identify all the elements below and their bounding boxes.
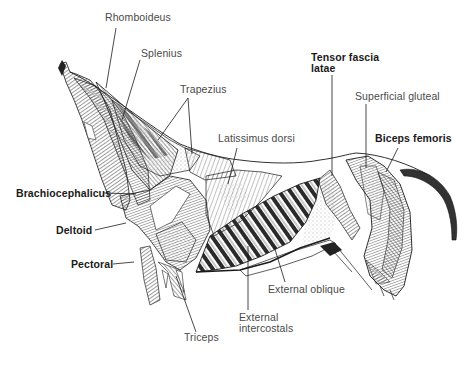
- label-superficial-gluteal: Superficial gluteal: [355, 91, 440, 102]
- leader-trapezius-a: [158, 98, 188, 140]
- leader-external-oblique: [274, 246, 285, 282]
- label-tensor-line2: latae: [311, 63, 379, 74]
- label-external-intercostals: External intercostals: [239, 312, 293, 334]
- label-latissimus-dorsi: Latissimus dorsi: [218, 133, 295, 144]
- leader-deltoid: [95, 223, 126, 230]
- label-tensor-fascia-latae: Tensor fascia latae: [311, 52, 379, 74]
- label-deltoid: Deltoid: [56, 225, 92, 236]
- forelimb-region: [120, 176, 210, 305]
- label-trapezius: Trapezius: [180, 84, 227, 95]
- label-biceps-femoris: Biceps femoris: [375, 133, 452, 144]
- label-brachiocephalicus: Brachiocephalicus: [16, 188, 111, 199]
- label-intercostals-line2: intercostals: [239, 323, 293, 334]
- label-triceps: Triceps: [184, 332, 219, 343]
- leader-triceps: [176, 276, 196, 332]
- leader-trapezius-b: [188, 98, 192, 154]
- leader-pectoral: [113, 262, 134, 264]
- leader-biceps-femoris: [386, 148, 398, 172]
- label-splenius: Splenius: [141, 48, 182, 59]
- label-pectoral: Pectoral: [71, 259, 113, 270]
- anatomy-diagram: Rhomboideus Splenius Trapezius Latissimu…: [0, 0, 466, 366]
- label-external-oblique: External oblique: [268, 284, 345, 295]
- dog-muscle-drawing: [0, 0, 466, 366]
- label-rhomboideus: Rhomboideus: [105, 12, 171, 23]
- leader-rhomboideus: [106, 28, 116, 88]
